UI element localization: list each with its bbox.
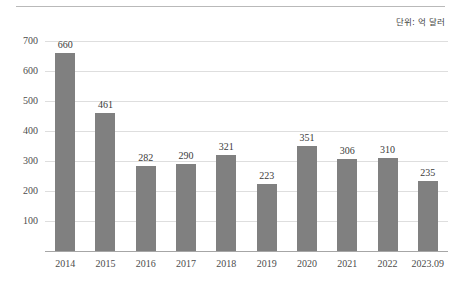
y-axis-tick-label: 100 (4, 216, 38, 226)
y-axis-tick-label: 500 (4, 96, 38, 106)
x-axis-line (45, 251, 448, 252)
top-divider-rule (16, 6, 445, 7)
y-axis-tick-label: 400 (4, 126, 38, 136)
x-axis-tick-label: 2014 (55, 258, 75, 269)
unit-note-label: 단위: 억 달러 (396, 15, 445, 27)
bar[interactable] (257, 184, 277, 251)
x-axis-tick-label: 2018 (216, 258, 236, 269)
x-axis-tick-label: 2015 (95, 258, 115, 269)
bar-slot: 321 (206, 41, 246, 251)
x-axis-tick-label: 2021 (337, 258, 357, 269)
y-axis-tick-label: 600 (4, 66, 38, 76)
bar-value-label: 310 (380, 145, 395, 155)
x-axis-tick-label: 2017 (176, 258, 196, 269)
bar[interactable] (176, 164, 196, 251)
x-axis-tick-label: 2016 (136, 258, 156, 269)
bar-value-label: 321 (219, 142, 234, 152)
bar-slot: 351 (287, 41, 327, 251)
bar[interactable] (418, 181, 438, 252)
bar-value-label: 235 (420, 168, 435, 178)
bar-slot: 223 (247, 41, 287, 251)
y-axis-tick-label: 200 (4, 186, 38, 196)
bar-slot: 290 (166, 41, 206, 251)
bar-value-label: 306 (340, 146, 355, 156)
bar[interactable] (378, 158, 398, 251)
bar[interactable] (95, 113, 115, 251)
bar-slot: 235 (408, 41, 448, 251)
bar[interactable] (136, 166, 156, 251)
bar[interactable] (297, 146, 317, 251)
bar-value-label: 351 (299, 133, 314, 143)
y-axis-tick-label: 300 (4, 156, 38, 166)
x-axis-tick-label: 2022 (378, 258, 398, 269)
bar-value-label: 290 (179, 151, 194, 161)
plot-area: 660461282290321223351306310235 (45, 41, 448, 251)
bar-chart-figure: 단위: 억 달러 660461282290321223351306310235 … (0, 0, 457, 285)
bar-value-label: 282 (138, 153, 153, 163)
bar[interactable] (216, 155, 236, 251)
x-axis-tick-label: 2020 (297, 258, 317, 269)
bar-slot: 310 (367, 41, 407, 251)
bar-slot: 660 (45, 41, 85, 251)
bar-slot: 282 (126, 41, 166, 251)
bar-value-label: 660 (58, 40, 73, 50)
bar-value-label: 461 (98, 100, 113, 110)
x-axis-tick-label: 2019 (257, 258, 277, 269)
bar[interactable] (55, 53, 75, 251)
bar-slot: 306 (327, 41, 367, 251)
y-axis-tick-label: 700 (4, 36, 38, 46)
x-axis-tick-label: 2023.09 (412, 258, 445, 269)
bar-value-label: 223 (259, 171, 274, 181)
bar-slot: 461 (85, 41, 125, 251)
bar[interactable] (337, 159, 357, 251)
